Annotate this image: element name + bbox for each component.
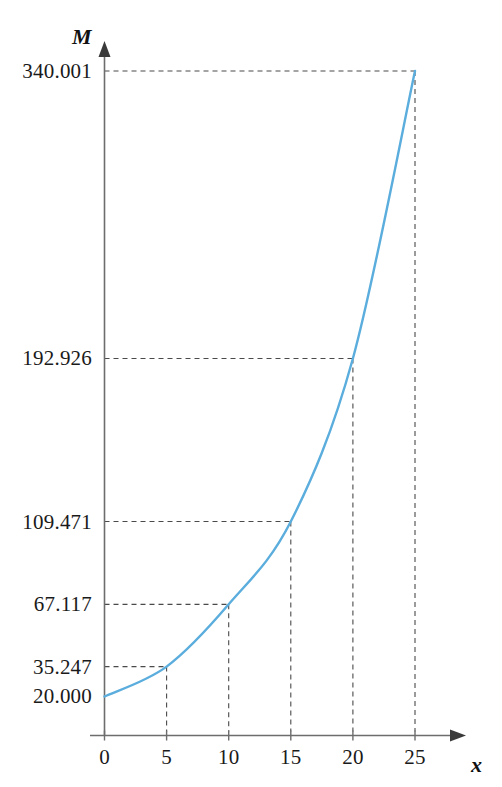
y-axis-arrowhead	[99, 41, 111, 57]
x-axis-tick-label: 5	[161, 745, 172, 770]
x-axis-tick-label: 20	[342, 745, 363, 770]
data-series-curve	[105, 71, 416, 696]
y-axis-tick-label: 109.471	[0, 509, 92, 534]
x-axis-tick-label: 15	[280, 745, 301, 770]
y-axis-tick-label: 35.247	[0, 654, 92, 679]
y-axis-tick-label: 67.117	[0, 592, 92, 617]
y-axis-label: M	[72, 24, 92, 50]
x-axis-tick-label: 25	[404, 745, 425, 770]
y-axis-tick-label: 192.926	[0, 346, 92, 371]
y-axis-tick-label: 20.000	[0, 684, 92, 709]
x-axis-tick-label: 10	[218, 745, 239, 770]
x-axis-tick-label: 0	[99, 745, 110, 770]
chart-container: 340.001192.926109.47167.11735.24720.000 …	[0, 0, 502, 787]
x-axis-label: x	[471, 752, 482, 778]
x-axis-arrowhead	[450, 730, 466, 742]
gridlines-horizontal	[105, 71, 416, 667]
y-axis-tick-label: 340.001	[0, 59, 92, 84]
